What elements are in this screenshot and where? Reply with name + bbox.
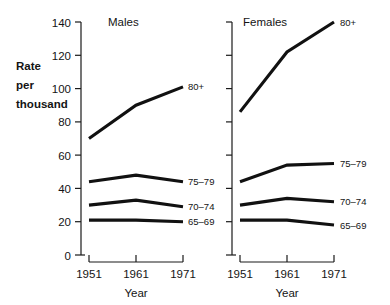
y-tick-label-120: 120 bbox=[52, 50, 71, 62]
series-line-females-65-69 bbox=[240, 220, 334, 225]
panel-females: Females 1951 1961 1971 Year 80+ 75– bbox=[226, 16, 366, 299]
x-tick-label-1961-females: 1961 bbox=[274, 268, 300, 280]
series-line-females-70-74 bbox=[240, 198, 334, 205]
x-tick-label-1961-males: 1961 bbox=[123, 268, 149, 280]
series-label-males-70-74: 70–74 bbox=[188, 201, 214, 212]
series-label-females-65-69: 65–69 bbox=[340, 220, 366, 231]
y-tick-label-140: 140 bbox=[52, 17, 71, 29]
x-axis-title-females: Year bbox=[275, 287, 298, 299]
series-label-males-65-69: 65–69 bbox=[188, 216, 214, 227]
series-label-males-80plus: 80+ bbox=[188, 81, 205, 92]
series-line-males-65-69 bbox=[89, 220, 183, 222]
y-tick-label-0: 0 bbox=[65, 250, 71, 262]
y-axis-label-line-3: thousand bbox=[16, 98, 68, 110]
y-axis-label-line-2: per bbox=[16, 79, 34, 91]
series-label-females-75-79: 75–79 bbox=[340, 158, 366, 169]
y-ticks-females bbox=[226, 22, 232, 255]
y-tick-label-20: 20 bbox=[58, 216, 71, 228]
x-tick-label-1971-males: 1971 bbox=[170, 268, 196, 280]
panel-males: Males 0 20 40 60 80 100 120 140 bbox=[52, 16, 215, 299]
panel-title-males: Males bbox=[108, 16, 139, 28]
series-line-males-80plus bbox=[89, 87, 183, 139]
series-line-males-70-74 bbox=[89, 200, 183, 207]
series-line-males-75-79 bbox=[89, 175, 183, 182]
x-axis-females bbox=[240, 255, 334, 262]
y-ticks-males bbox=[75, 22, 81, 255]
two-panel-line-chart: Rate per thousand Males 0 20 40 60 80 10… bbox=[0, 0, 390, 305]
x-tick-label-1971-females: 1971 bbox=[321, 268, 347, 280]
y-tick-label-60: 60 bbox=[58, 150, 71, 162]
series-line-females-75-79 bbox=[240, 164, 334, 182]
y-tick-label-40: 40 bbox=[58, 183, 71, 195]
x-axis-males bbox=[89, 255, 183, 262]
x-tick-label-1951-males: 1951 bbox=[76, 268, 102, 280]
series-label-males-75-79: 75–79 bbox=[188, 176, 214, 187]
y-tick-label-80: 80 bbox=[58, 116, 71, 128]
x-axis-title-males: Year bbox=[124, 287, 147, 299]
series-line-females-80plus bbox=[240, 22, 334, 112]
y-axis-label-line-1: Rate bbox=[16, 60, 41, 72]
series-label-females-70-74: 70–74 bbox=[340, 196, 366, 207]
y-tick-label-100: 100 bbox=[52, 83, 71, 95]
x-tick-label-1951-females: 1951 bbox=[227, 268, 253, 280]
series-label-females-80plus: 80+ bbox=[340, 17, 357, 28]
panel-title-females: Females bbox=[243, 16, 287, 28]
